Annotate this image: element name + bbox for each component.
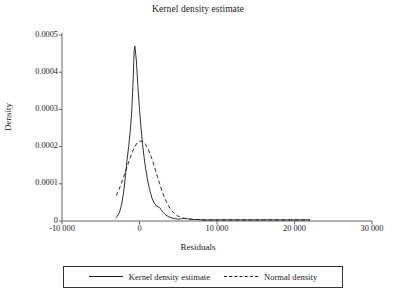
legend-items: Kernel density estimate Normal density <box>64 267 342 287</box>
legend-item-label: Normal density <box>264 272 317 282</box>
legend-item-kernel-density-estimate: Kernel density estimate <box>89 272 210 282</box>
legend-item-normal-density: Normal density <box>224 272 317 282</box>
normal-density-curve <box>116 141 310 220</box>
x-tick-marks <box>62 221 372 225</box>
kernel-density-figure: Kernel density estimate Density 00.00010… <box>0 0 396 298</box>
plot-canvas <box>0 0 396 298</box>
legend: Kernel density estimate Normal density <box>63 266 343 288</box>
axes-group <box>59 33 372 225</box>
legend-dashed-line-icon <box>224 276 258 278</box>
series-group <box>115 46 310 220</box>
legend-item-label: Kernel density estimate <box>129 272 210 282</box>
x-axis-title: Residuals <box>0 242 396 252</box>
legend-solid-line-icon <box>89 276 123 278</box>
kernel-density-curve <box>115 46 310 220</box>
